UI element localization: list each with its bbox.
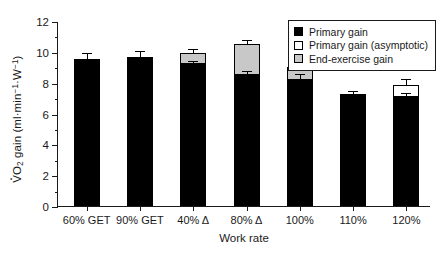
y-axis-tick-label: 0 <box>43 201 49 213</box>
chart-legend: Primary gainPrimary gain (asymptotic)End… <box>288 20 436 71</box>
error-bar-stem <box>140 51 141 58</box>
x-axis-tick <box>353 206 354 211</box>
bar-segment-primary-gain <box>287 80 313 206</box>
error-bar-cap <box>242 40 252 41</box>
x-axis-tick-label: 110% <box>339 214 366 226</box>
legend-label: End-exercise gain <box>309 53 393 65</box>
legend-item: End-exercise gain <box>294 52 428 66</box>
y-axis-tick-label: 10 <box>36 47 49 59</box>
error-bar-cap <box>401 93 411 94</box>
x-axis-tick-label: 80% Δ <box>231 214 263 226</box>
x-axis-tick <box>406 206 407 211</box>
legend-label: Primary gain (asymptotic) <box>309 39 428 51</box>
x-axis-tick <box>140 206 141 211</box>
y-axis-minor-tick <box>55 130 59 131</box>
y-axis-minor-tick <box>55 161 59 162</box>
y-axis-title: VO2 gain (ml·min−1·W−1) <box>11 19 25 219</box>
y-axis-unit-min-exp: −1 <box>11 84 20 94</box>
x-axis-tick <box>193 206 194 211</box>
error-bar-cap <box>295 74 305 75</box>
v-dot-accent: V <box>11 175 23 183</box>
error-bar-cap <box>242 71 252 72</box>
bar-group <box>180 53 206 206</box>
error-bar-stem <box>406 79 407 86</box>
bar-group <box>393 85 419 206</box>
bar-segment-primary-gain <box>180 64 206 206</box>
y-axis-tick <box>52 176 58 177</box>
y-axis-minor-tick <box>55 37 59 38</box>
y-axis-tick <box>52 145 58 146</box>
error-bar-cap <box>188 61 198 62</box>
error-bar-stem <box>300 74 301 81</box>
y-axis-minor-tick <box>55 192 59 193</box>
legend-label: Primary gain <box>309 26 368 38</box>
bar-segment-primary-gain <box>74 59 100 206</box>
bar-group <box>340 94 366 206</box>
error-bar-cap <box>188 49 198 50</box>
y-axis-unit-w-exp: −1 <box>11 59 20 69</box>
error-bar-cap <box>348 91 358 92</box>
x-axis-tick-label: 60% GET <box>63 214 111 226</box>
error-bar-cap <box>401 79 411 80</box>
x-axis-tick-label: 120% <box>392 214 420 226</box>
legend-swatch <box>294 27 303 36</box>
y-axis-tick-label: 8 <box>43 78 49 90</box>
legend-item: Primary gain (asymptotic) <box>294 39 428 53</box>
bar-group <box>74 59 100 206</box>
y-axis-tick-label: 4 <box>43 139 49 151</box>
error-bar-cap <box>82 53 92 54</box>
y-axis-tick <box>52 53 58 54</box>
y-axis-title-close: ) <box>11 55 23 59</box>
x-axis-tick-label: 100% <box>286 214 314 226</box>
bar-segment-primary-gain <box>234 75 260 206</box>
y-axis-title-sub: 2 <box>16 161 25 166</box>
bar-segment-primary-gain <box>340 94 366 206</box>
legend-item: Primary gain <box>294 25 428 39</box>
legend-swatch <box>294 54 303 63</box>
bar-group <box>287 67 313 206</box>
legend-swatch <box>294 41 303 50</box>
y-axis-title-main: O <box>11 166 23 175</box>
bar-segment-primary-gain <box>127 57 153 206</box>
y-axis-minor-tick <box>55 99 59 100</box>
x-axis-tick <box>300 206 301 211</box>
x-axis-tick <box>87 206 88 211</box>
bar-group <box>234 44 260 206</box>
x-axis-tick-label: 90% GET <box>116 214 164 226</box>
x-axis-tick-label: 40% Δ <box>177 214 209 226</box>
y-axis-tick-label: 2 <box>43 170 49 182</box>
y-axis-tick-label: 12 <box>36 16 49 28</box>
y-axis-tick <box>52 22 58 23</box>
y-axis-tick <box>52 84 58 85</box>
y-axis-tick <box>52 207 58 208</box>
y-axis-unit-min: min <box>11 94 23 113</box>
error-bar-cap <box>135 51 145 52</box>
error-bar-stem <box>87 53 88 60</box>
y-axis-tick-label: 6 <box>43 109 49 121</box>
y-axis-minor-tick <box>55 68 59 69</box>
bar-group <box>127 57 153 206</box>
bar-segment-primary-gain <box>393 97 419 206</box>
y-axis-unit-w: W <box>11 69 23 80</box>
y-axis-title-rest: gain (ml <box>11 116 23 161</box>
x-axis-tick <box>247 206 248 211</box>
chart-figure: VO2 gain (ml·min−1·W−1) 02468101260% GET… <box>0 0 446 260</box>
y-axis-tick <box>52 115 58 116</box>
x-axis-title: Work rate <box>219 232 269 244</box>
